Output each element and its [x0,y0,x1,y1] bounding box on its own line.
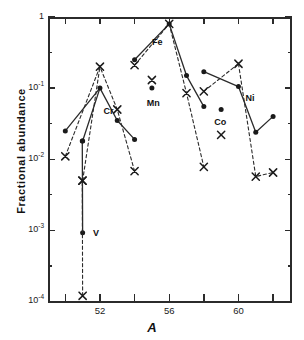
y-tick-major-right [285,301,292,302]
solid-line [204,72,239,87]
data-point-circle [80,139,85,144]
x-tick [272,294,273,301]
x-tick-top [272,17,273,24]
data-point-circle [63,128,68,133]
y-tick-major [48,87,55,88]
y-tick-label: 10-4 [0,296,44,305]
y-tick-major-right [285,230,292,231]
solid-line [65,88,134,139]
right-spine [290,17,292,303]
element-label-v: V [93,229,99,238]
data-point-circle [201,69,206,74]
x-tick [65,294,66,301]
x-tick [134,294,135,301]
element-label-mn: Mn [147,99,160,108]
data-point-cross [148,76,155,83]
y-tick-label: 1 [0,12,44,21]
dashed-line [204,64,239,92]
data-point-cross [131,168,138,175]
figure-panel: 110-110-210-310-4525660 Fractional abund… [0,0,304,340]
solid-line [238,87,273,133]
data-point-circle [271,114,276,119]
dashed-line [83,67,100,181]
data-point-cross [79,292,86,299]
x-tick-label: 60 [224,306,252,316]
y-tick-minor [48,52,52,53]
x-tick-label: 56 [155,306,183,316]
data-point-circle [184,73,189,78]
data-point-cross [252,173,259,180]
data-point-cross [183,90,190,97]
data-point-circle [132,57,137,62]
x-tick-top [99,17,100,24]
solid-line [169,24,204,107]
y-tick-minor-right [288,194,292,195]
element-label-fe: Fe [152,38,163,47]
data-point-cross [269,169,276,176]
data-point-cross [79,177,86,184]
y-tick-minor [48,265,52,266]
data-point-circle [115,118,120,123]
data-point-cross [131,62,138,69]
top-spine [48,17,292,19]
data-point-cross [114,106,121,113]
data-point-cross [96,63,103,70]
data-point-cross [200,163,207,170]
data-point-circle [253,130,258,135]
y-tick-major [48,159,55,160]
y-tick-minor [48,194,52,195]
data-point-circle [201,104,206,109]
dashed-line [169,24,204,167]
series-observed [62,20,277,299]
series-calculated [63,21,276,235]
y-tick-minor-right [288,265,292,266]
dashed-line [238,64,273,177]
y-tick-major [48,16,55,17]
x-tick [238,294,239,301]
y-tick-major-right [285,159,292,160]
y-tick-minor-right [288,123,292,124]
data-point-cross [218,131,225,138]
y-tick-major-right [285,87,292,88]
dashed-line [65,67,134,171]
y-axis-line [48,17,50,303]
y-tick-major [48,230,55,231]
data-point-circle [97,86,102,91]
x-tick [203,294,204,301]
x-axis-line [48,301,292,303]
data-point-circle [80,230,85,235]
element-label-cr: Cr [103,107,113,116]
x-tick-label: 52 [86,306,114,316]
y-tick-label: 10-3 [0,225,44,234]
data-point-cross [235,60,242,67]
x-tick-top [65,17,66,24]
element-label-ni: Ni [245,94,254,103]
x-axis-title: A [0,320,304,335]
data-point-circle [219,107,224,112]
y-tick-major-right [285,16,292,17]
x-tick-top [134,17,135,24]
data-plot-area [0,0,304,340]
x-tick-top [169,17,170,24]
x-tick-top [203,17,204,24]
x-tick [169,294,170,301]
y-tick-major [48,301,55,302]
data-point-circle [132,137,137,142]
y-tick-minor-right [288,52,292,53]
data-point-circle [80,139,85,144]
y-tick-minor [48,123,52,124]
data-point-cross [62,153,69,160]
x-tick [99,294,100,301]
data-point-circle [149,86,154,91]
element-label-co: Co [214,118,226,127]
data-point-cross [200,88,207,95]
x-tick-top [238,17,239,24]
y-axis-title: Fractional abundance [15,76,27,226]
solid-line [83,88,100,141]
data-point-cross [79,177,86,184]
data-point-circle [236,84,241,89]
